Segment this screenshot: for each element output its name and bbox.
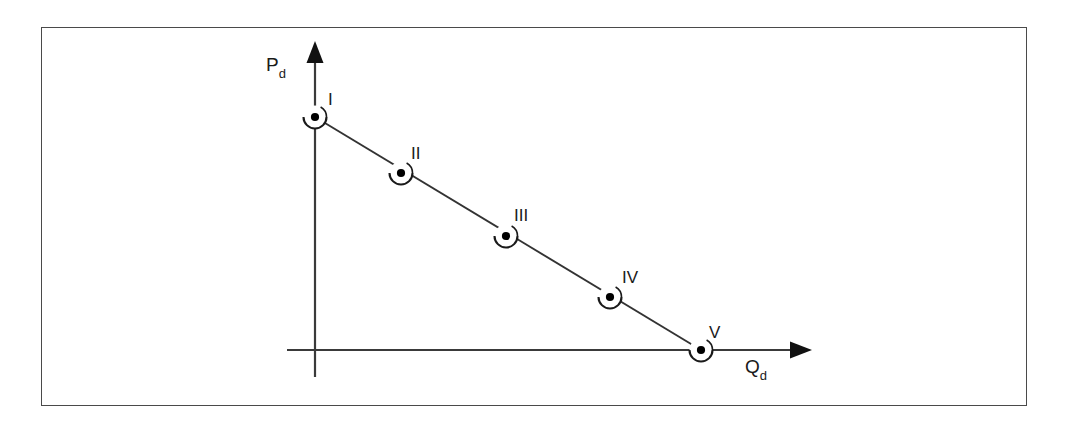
point-label-V: V <box>709 324 720 341</box>
data-point-marker-I <box>304 106 327 129</box>
point-label-I: I <box>328 91 333 108</box>
data-point-marker-III <box>495 225 518 248</box>
y-axis-arrowhead <box>307 41 324 63</box>
y-axis-label-subscript: d <box>279 66 286 81</box>
x-axis-label-subscript: d <box>760 368 767 383</box>
point-label-IV: IV <box>622 269 638 286</box>
x-axis-label-text: Q <box>745 356 760 377</box>
data-point-marker-II <box>390 162 413 185</box>
figure-root: Pd Qd I II III IV V <box>0 0 1065 425</box>
point-label-II: II <box>411 145 420 162</box>
x-axis-arrowhead <box>790 342 812 359</box>
y-axis-label: Pd <box>266 54 286 79</box>
data-point-marker-IV <box>599 286 622 309</box>
demand-curve-plot <box>0 0 1065 425</box>
x-axis-label: Qd <box>745 356 767 381</box>
point-label-III: III <box>514 207 528 224</box>
y-axis-label-text: P <box>266 54 279 75</box>
